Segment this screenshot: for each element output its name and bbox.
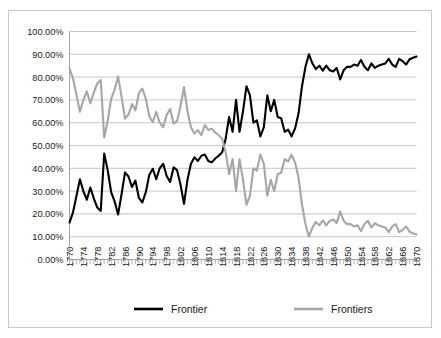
y-axis-tick-label: 80.00% <box>32 73 63 83</box>
x-axis-tick-label: 1822 <box>246 247 256 267</box>
y-axis-tick-label: 70.00% <box>32 95 63 105</box>
x-axis-tick-label: 1782 <box>107 247 117 267</box>
x-axis-tick-label: 1838 <box>301 247 311 267</box>
x-axis-tick-label: 1858 <box>370 247 380 267</box>
x-axis-tick-label: 1798 <box>162 247 172 267</box>
x-axis-tick-label: 1830 <box>273 247 283 267</box>
x-axis-tick-labels: 1770177417781782178617901794179818021806… <box>65 247 422 267</box>
x-axis-tick-label: 1802 <box>176 247 186 267</box>
x-axis-tick-label: 1806 <box>190 247 200 267</box>
y-axis-tick-label: 60.00% <box>32 118 63 128</box>
x-axis-tick-label: 1790 <box>135 247 145 267</box>
y-axis-tick-label: 10.00% <box>32 232 63 242</box>
y-axis-tick-labels: 100.00%90.00%80.00%70.00%60.00%50.00%40.… <box>27 27 63 265</box>
series-line-frontiers <box>70 68 417 236</box>
y-axis-tick-label: 40.00% <box>32 164 63 174</box>
y-axis-tick-label: 0.00% <box>37 255 63 265</box>
legend-label-frontiers: Frontiers <box>331 303 372 315</box>
y-axis-tick-label: 20.00% <box>32 209 63 219</box>
x-axis-tick-label: 1778 <box>93 247 103 267</box>
x-axis-tick-label: 1870 <box>412 247 422 267</box>
x-axis-tick-label: 1814 <box>218 247 228 267</box>
legend-label-frontier: Frontier <box>171 303 208 315</box>
series-line-frontier <box>70 54 417 222</box>
x-axis-tick-label: 1786 <box>121 247 131 267</box>
y-axis-tick-label: 30.00% <box>32 187 63 197</box>
y-axis-tick-label: 90.00% <box>32 50 63 60</box>
x-axis-tick-label: 1846 <box>329 247 339 267</box>
x-axis-tick-label: 1850 <box>343 247 353 267</box>
x-axis-tick-label: 1866 <box>398 247 408 267</box>
x-axis-tick-label: 1810 <box>204 247 214 267</box>
x-axis-tick-label: 1818 <box>232 247 242 267</box>
chart-legend: FrontierFrontiers <box>134 303 372 315</box>
line-chart: 100.00%90.00%80.00%70.00%60.00%50.00%40.… <box>9 11 433 329</box>
y-axis-tick-label: 100.00% <box>27 27 63 37</box>
x-axis-tick-label: 1826 <box>259 247 269 267</box>
plot-area: 100.00%90.00%80.00%70.00%60.00%50.00%40.… <box>9 11 433 329</box>
gridlines-group <box>70 32 417 237</box>
chart-container: 100.00%90.00%80.00%70.00%60.00%50.00%40.… <box>8 10 432 328</box>
x-axis-tick-label: 1794 <box>148 247 158 267</box>
x-axis-tick-label: 1774 <box>79 247 89 267</box>
x-axis-tick-label: 1834 <box>287 247 297 267</box>
x-axis-tick-label: 1854 <box>357 247 367 267</box>
x-axis-tick-label: 1862 <box>384 247 394 267</box>
x-axis-tick-label: 1842 <box>315 247 325 267</box>
x-axis-tick-label: 1770 <box>65 247 75 267</box>
y-axis-tick-label: 50.00% <box>32 141 63 151</box>
